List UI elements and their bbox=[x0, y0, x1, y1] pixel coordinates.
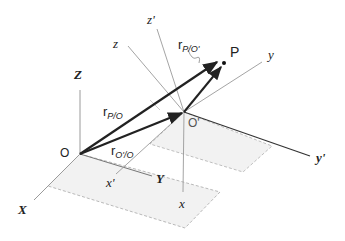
label-Z-axis: Z bbox=[74, 68, 82, 81]
label-P: P bbox=[230, 45, 239, 59]
point-P bbox=[222, 61, 226, 65]
fixed-ground-plane bbox=[48, 154, 220, 228]
label-r-P-Oprime: rP/O' bbox=[178, 38, 200, 54]
label-O-prime: O' bbox=[188, 117, 200, 129]
label-r-P-O: rP/O bbox=[103, 105, 123, 121]
label-r-Oprime-O: rO'/O bbox=[111, 144, 134, 160]
label-X-axis: X bbox=[18, 203, 27, 216]
label-x-prime-axis: x' bbox=[106, 176, 115, 189]
relative-motion-diagram: O O' P Z Y X z y x z' y' x' rP/O rO'/O r… bbox=[0, 0, 345, 241]
y-axis bbox=[184, 62, 262, 112]
label-x-axis: x bbox=[179, 197, 185, 210]
label-Y-axis: Y bbox=[156, 172, 164, 185]
label-O: O bbox=[60, 147, 69, 159]
vector-r-P-Oprime bbox=[184, 67, 221, 112]
label-z-axis: z bbox=[113, 37, 118, 50]
label-z-prime-axis: z' bbox=[147, 13, 155, 26]
label-y-axis: y bbox=[268, 48, 274, 61]
label-y-prime-axis: y' bbox=[316, 151, 325, 164]
diagram-canvas bbox=[0, 0, 345, 241]
